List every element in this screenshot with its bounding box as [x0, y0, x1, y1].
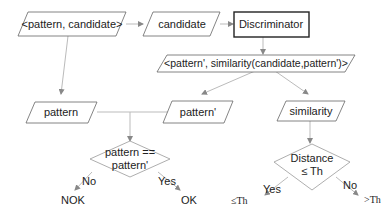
decision-distance-line2: ≤ Th — [301, 165, 323, 177]
node-output-pair-label: <pattern', similarity(candidate,pattern'… — [164, 57, 348, 69]
decision-distance: Distance ≤ Th — [274, 144, 350, 190]
branch-distance-no: No — [343, 179, 357, 191]
decision-equal-line2: pattern' — [112, 159, 148, 171]
edge-input-to-pattern — [61, 36, 68, 94]
outcome-ok: OK — [181, 194, 198, 206]
branch-distance-yes: Yes — [263, 183, 281, 195]
decision-pattern-equal: pattern == pattern' — [90, 141, 170, 177]
node-pattern-label: pattern — [44, 106, 78, 118]
node-candidate-label: candidate — [158, 18, 206, 30]
node-input-pair-label: <pattern, candidate> — [22, 18, 123, 30]
branch-equal-yes: Yes — [158, 175, 176, 187]
node-candidate: candidate — [143, 12, 220, 36]
outcome-le-th: ≤Th — [231, 195, 248, 206]
edge-output-to-similarity — [275, 71, 308, 94]
decision-equal-line1: pattern == — [105, 146, 155, 158]
node-discriminator: Discriminator — [234, 12, 309, 37]
node-similarity: similarity — [277, 101, 345, 121]
outcome-nok: NOK — [61, 194, 86, 206]
flowchart: <pattern, candidate> candidate Discrimin… — [0, 0, 392, 213]
node-discriminator-label: Discriminator — [239, 18, 304, 30]
decision-distance-line1: Distance — [291, 152, 334, 164]
outcome-gt-th: >Th — [364, 194, 381, 205]
node-output-pair: <pattern', similarity(candidate,pattern'… — [157, 55, 355, 72]
node-pattern: pattern — [26, 102, 97, 123]
branch-equal-no: No — [82, 175, 96, 187]
node-input-pair: <pattern, candidate> — [18, 12, 126, 36]
node-pattern-prime: pattern' — [163, 101, 233, 123]
edge-output-to-pattern-prime — [202, 71, 255, 94]
node-similarity-label: similarity — [290, 105, 333, 117]
node-pattern-prime-label: pattern' — [180, 106, 216, 118]
